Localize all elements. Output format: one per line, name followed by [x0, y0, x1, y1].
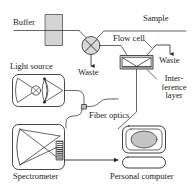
label-light-source: Light source: [10, 62, 53, 71]
computer-base: [123, 157, 166, 168]
buffer-to-valve-line: [79, 31, 87, 39]
buffer-reservoir: [46, 15, 63, 46]
label-interference-line3: layer: [166, 90, 183, 100]
label-personal-computer: Personal computer: [110, 172, 174, 181]
label-spectrometer: Spectrometer: [13, 172, 58, 181]
label-flow-cell: Flow cell: [113, 34, 145, 43]
flowcell-fiber-line: [118, 70, 137, 130]
flowcell-label-leader: [145, 41, 152, 48]
flow-cell-channel: [123, 58, 152, 68]
detector-array: [57, 141, 64, 160]
label-buffer: Buffer: [13, 18, 35, 27]
label-waste-cell: Waste: [159, 56, 180, 65]
light-source-fiber: [65, 91, 85, 105]
fiber-optics-coupler: [82, 105, 87, 110]
computer-screen: [131, 131, 157, 148]
coupler-to-spectrometer-fiber: [66, 109, 82, 128]
interference-label-leader: [148, 70, 157, 79]
valve-to-flowcell-line: [100, 46, 127, 56]
label-interference-layer: Inter- ference layer: [157, 74, 191, 100]
instrument-schematic-diagram: Buffer Sample Flow cell Waste Waste Inte…: [0, 0, 192, 193]
label-fiber-optics: Fiber optics: [89, 111, 129, 120]
label-sample: Sample: [143, 14, 169, 23]
coupler-to-flowcell-fiber: [86, 99, 113, 107]
label-waste-valve: Waste: [78, 68, 99, 77]
